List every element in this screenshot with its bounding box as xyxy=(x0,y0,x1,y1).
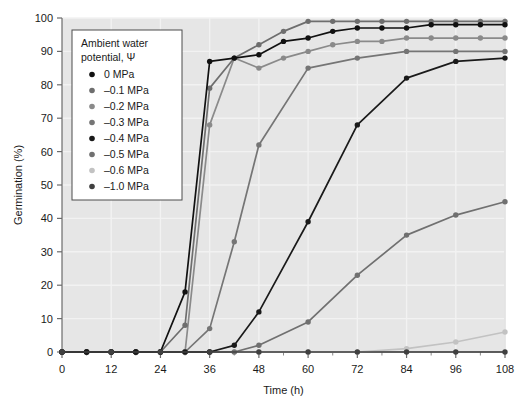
x-axis-title: Time (h) xyxy=(263,384,304,396)
y-tick-label: 100 xyxy=(35,12,53,24)
legend-label: –0.1 MPa xyxy=(104,84,149,96)
legend-title-line2: potential, Ψ xyxy=(81,51,136,63)
legend-marker xyxy=(89,184,95,190)
data-point xyxy=(453,349,458,354)
legend-label: 0 MPa xyxy=(104,68,135,80)
legend-marker xyxy=(89,168,95,174)
y-tick-label: 10 xyxy=(41,313,53,325)
data-point xyxy=(404,49,409,54)
x-tick-label: 84 xyxy=(400,363,412,375)
data-point xyxy=(453,49,458,54)
data-point xyxy=(305,65,310,70)
data-point xyxy=(502,49,507,54)
data-point xyxy=(207,326,212,331)
data-point xyxy=(109,349,114,354)
data-point xyxy=(404,232,409,237)
legend-marker xyxy=(89,152,95,158)
data-point xyxy=(502,35,507,40)
data-point xyxy=(207,349,212,354)
data-point xyxy=(404,349,409,354)
data-point xyxy=(404,25,409,30)
legend-label: –0.6 MPa xyxy=(104,164,149,176)
data-point xyxy=(355,122,360,127)
data-point xyxy=(453,59,458,64)
data-point xyxy=(330,42,335,47)
data-point xyxy=(379,19,384,24)
x-tick-label: 60 xyxy=(302,363,314,375)
data-point xyxy=(502,199,507,204)
legend-label: –0.4 MPa xyxy=(104,132,149,144)
x-tick-label: 96 xyxy=(450,363,462,375)
data-point xyxy=(256,349,261,354)
data-point xyxy=(305,19,310,24)
data-point xyxy=(404,19,409,24)
data-point xyxy=(355,349,360,354)
data-point xyxy=(256,65,261,70)
legend-label: –0.3 MPa xyxy=(104,116,149,128)
legend-marker xyxy=(89,72,95,78)
data-point xyxy=(305,219,310,224)
data-point xyxy=(428,22,433,27)
data-point xyxy=(182,289,187,294)
x-tick-label: 12 xyxy=(105,363,117,375)
y-tick-label: 80 xyxy=(41,79,53,91)
legend-title-line1: Ambient water xyxy=(81,37,149,49)
data-point xyxy=(478,22,483,27)
data-point xyxy=(305,319,310,324)
data-point xyxy=(404,75,409,80)
data-point xyxy=(453,35,458,40)
data-point xyxy=(355,19,360,24)
data-point xyxy=(232,239,237,244)
data-point xyxy=(502,349,507,354)
x-tick-label: 36 xyxy=(204,363,216,375)
data-point xyxy=(404,35,409,40)
data-point xyxy=(305,35,310,40)
data-point xyxy=(305,49,310,54)
data-point xyxy=(281,39,286,44)
data-point xyxy=(453,212,458,217)
data-point xyxy=(502,55,507,60)
y-tick-label: 60 xyxy=(41,146,53,158)
data-point xyxy=(232,343,237,348)
y-tick-label: 30 xyxy=(41,246,53,258)
data-point xyxy=(207,122,212,127)
y-tick-label: 90 xyxy=(41,45,53,57)
data-point xyxy=(281,29,286,34)
data-point xyxy=(330,19,335,24)
data-point xyxy=(502,22,507,27)
y-tick-label: 0 xyxy=(47,346,53,358)
y-tick-label: 40 xyxy=(41,212,53,224)
x-tick-label: 24 xyxy=(154,363,166,375)
data-point xyxy=(281,55,286,60)
data-point xyxy=(182,323,187,328)
legend: Ambient waterpotential, Ψ0 MPa–0.1 MPa–0… xyxy=(72,30,182,200)
data-point xyxy=(158,349,163,354)
chart-svg: 0102030405060708090100012243648607284961… xyxy=(0,0,517,397)
x-tick-label: 72 xyxy=(351,363,363,375)
legend-marker xyxy=(89,88,95,94)
data-point xyxy=(355,272,360,277)
data-point xyxy=(355,25,360,30)
data-point xyxy=(478,35,483,40)
x-tick-label: 48 xyxy=(253,363,265,375)
y-tick-label: 70 xyxy=(41,112,53,124)
x-tick-label: 0 xyxy=(59,363,65,375)
x-tick-label: 108 xyxy=(496,363,514,375)
data-point xyxy=(428,35,433,40)
legend-marker xyxy=(89,136,95,142)
data-point xyxy=(502,329,507,334)
data-point xyxy=(256,52,261,57)
data-point xyxy=(256,309,261,314)
legend-label: –0.5 MPa xyxy=(104,148,149,160)
data-point xyxy=(355,55,360,60)
data-point xyxy=(256,42,261,47)
data-point xyxy=(330,29,335,34)
germination-chart-figure: 0102030405060708090100012243648607284961… xyxy=(0,0,517,397)
data-point xyxy=(256,343,261,348)
data-point xyxy=(453,22,458,27)
data-point xyxy=(379,25,384,30)
data-point xyxy=(305,349,310,354)
legend-label: –1.0 MPa xyxy=(104,180,149,192)
data-point xyxy=(256,142,261,147)
data-point xyxy=(207,59,212,64)
